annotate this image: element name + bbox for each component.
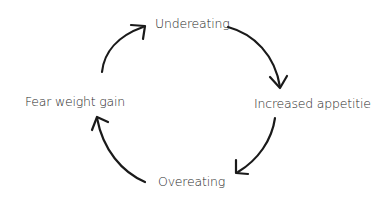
node-undereating: Undereating xyxy=(155,16,230,31)
node-overeating: Overeating xyxy=(158,174,225,189)
arrow-fear-to-undereating xyxy=(102,25,145,72)
arrow-overeating-to-fear xyxy=(92,117,145,182)
arrow-appetite-to-overeating xyxy=(236,118,275,174)
node-increased-appetite: Increased appetitie xyxy=(254,96,371,111)
node-fear-weight-gain: Fear weight gain xyxy=(25,94,125,109)
arrow-undereating-to-appetite xyxy=(228,27,287,88)
